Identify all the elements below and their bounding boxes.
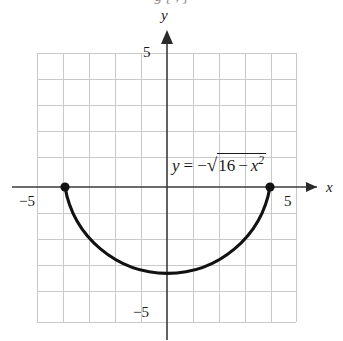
x-axis-arrow-icon	[306, 182, 317, 192]
equation-label: y=−√16−x2	[172, 153, 266, 174]
y-tick-label-5: 5	[143, 45, 151, 60]
equation-lhs: y	[172, 156, 180, 175]
radical-sign-icon: √	[207, 154, 217, 175]
equation-equals: =	[180, 156, 198, 175]
x-tick-label-5: 5	[284, 194, 292, 209]
y-axis	[161, 30, 173, 340]
endpoint-dot-right	[265, 182, 274, 191]
y-axis-label: y	[161, 8, 168, 23]
radicand: 16−x2	[217, 153, 266, 174]
x-axis-label: x	[326, 180, 333, 195]
endpoint-dot-left	[60, 182, 69, 191]
radicand-minus: −	[235, 156, 251, 175]
equation-minus: −	[197, 156, 207, 175]
radical-group: √16−x2	[207, 153, 266, 174]
y-axis-arrow-icon	[161, 30, 173, 44]
y-tick-label-neg5: −5	[133, 305, 149, 320]
radicand-a: 16	[218, 156, 235, 175]
x-tick-label-neg5: −5	[19, 194, 35, 209]
radicand-exponent: 2	[258, 154, 264, 167]
